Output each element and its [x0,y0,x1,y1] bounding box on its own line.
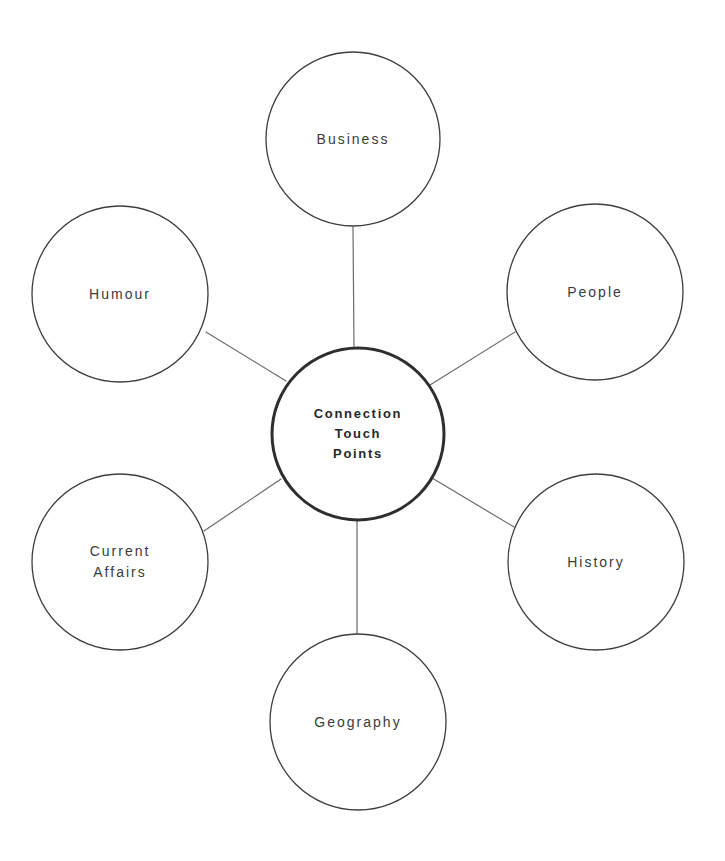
connector-history [432,478,514,527]
node-circle-business[interactable] [266,52,440,226]
connector-business [353,227,354,347]
node-circle-humour[interactable] [32,206,208,382]
center-circle-layer [272,348,444,520]
node-circle-current-affairs[interactable] [32,474,208,650]
center-circle-connection-touch-points[interactable] [272,348,444,520]
node-circle-geography[interactable] [270,634,446,810]
node-circle-history[interactable] [508,474,684,650]
connector-humour [206,332,286,381]
diagram-canvas: BusinessPeopleHistoryGeographyCurrent Af… [0,0,725,861]
diagram-svg [0,0,725,861]
connector-current-affairs [204,479,281,531]
connector-people [430,332,515,385]
node-circle-people[interactable] [507,204,683,380]
